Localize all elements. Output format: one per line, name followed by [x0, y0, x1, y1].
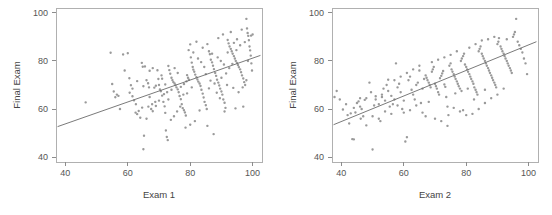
- x-tick-label: 80: [185, 168, 195, 178]
- y-tick-label: 80: [314, 56, 324, 66]
- y-tick-label: 60: [38, 104, 48, 114]
- data-points: [333, 18, 528, 151]
- regression-line: [334, 42, 537, 125]
- x-axis-title: Exam 1: [143, 189, 175, 200]
- scatter-plot-2: 406080100406080100Exam 2Final Exam: [276, 0, 552, 215]
- scatterplot-figure: 406080100406080100Exam 1Final Exam 40608…: [0, 0, 552, 215]
- x-tick-label: 40: [336, 168, 346, 178]
- x-tick-label: 60: [123, 168, 133, 178]
- y-tick-label: 100: [33, 8, 48, 18]
- data-points: [84, 18, 253, 151]
- x-tick-label: 40: [60, 168, 70, 178]
- scatter-plot-1: 406080100406080100Exam 1Final Exam: [0, 0, 276, 215]
- y-tick-label: 100: [309, 8, 324, 18]
- x-tick-label: 60: [399, 168, 409, 178]
- y-tick-label: 40: [314, 152, 324, 162]
- x-axis-title: Exam 2: [419, 189, 451, 200]
- scatter-panel-exam1: 406080100406080100Exam 1Final Exam: [0, 0, 276, 215]
- y-axis-title: Final Exam: [287, 61, 298, 109]
- regression-line: [58, 55, 261, 126]
- scatter-panel-exam2: 406080100406080100Exam 2Final Exam: [276, 0, 552, 215]
- y-tick-label: 80: [38, 56, 48, 66]
- x-tick-label: 100: [245, 168, 260, 178]
- x-tick-label: 80: [461, 168, 471, 178]
- y-axis-title: Final Exam: [11, 61, 22, 109]
- x-tick-label: 100: [521, 168, 536, 178]
- y-tick-label: 40: [38, 152, 48, 162]
- y-tick-label: 60: [314, 104, 324, 114]
